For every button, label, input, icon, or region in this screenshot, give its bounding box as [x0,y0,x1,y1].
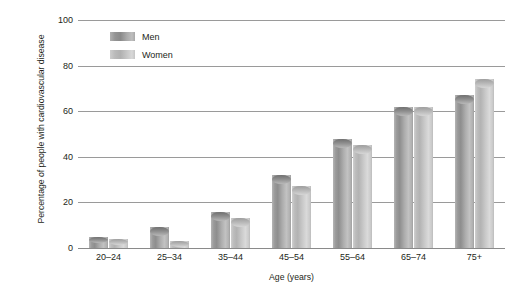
bar-body [455,95,474,248]
bar-body [414,107,433,248]
x-tick-label-55-64: 55–64 [340,252,365,262]
bar-men-45-54[interactable] [272,175,291,248]
bar-group [200,20,261,248]
bar-men-25-34[interactable] [150,227,169,248]
x-tick-label-75+: 75+ [467,252,482,262]
bar-group [261,20,322,248]
bar-men-20-24[interactable] [89,237,108,248]
bar-women-20-24[interactable] [109,239,128,248]
bar-top-cap [414,107,433,116]
bar-group [322,20,383,248]
bar-women-65-74[interactable] [414,107,433,248]
legend-swatch-men-icon [110,32,135,41]
gridline-0: 0 [78,248,505,249]
bar-body [333,139,352,248]
bar-body [394,107,413,248]
y-axis-title: Percentage of people with cardiovascular… [33,9,49,249]
bar-body [292,186,311,248]
y-tick-label-0: 0 [68,243,73,253]
bar-women-45-54[interactable] [292,186,311,248]
x-axis-title: Age (years) [78,272,505,282]
y-tick-label-20: 20 [63,197,73,207]
legend-swatch-women-icon [110,50,135,59]
x-tick-label-45-54: 45–54 [279,252,304,262]
legend-label-women: Women [142,50,173,60]
bar-top-cap [272,175,291,184]
legend: Men Women [110,29,173,65]
y-tick-label-60: 60 [63,106,73,116]
bar-men-65-74[interactable] [394,107,413,248]
bar-men-35-44[interactable] [211,212,230,248]
x-tick-label-20-24: 20–24 [96,252,121,262]
x-tick-label-65-74: 65–74 [401,252,426,262]
bar-top-cap [109,239,128,245]
bar-group [444,20,505,248]
bar-men-55-64[interactable] [333,139,352,248]
bar-women-75+[interactable] [475,79,494,248]
legend-item-men: Men [110,29,173,44]
bar-top-cap [211,212,230,221]
bar-group [383,20,444,248]
bar-body [475,79,494,248]
x-tick-label-35-44: 35–44 [218,252,243,262]
y-tick-label-100: 100 [58,15,73,25]
legend-item-women: Women [110,47,173,62]
x-tick-label-25-34: 25–34 [157,252,182,262]
bar-top-cap [394,107,413,116]
cardiovascular-disease-bar-chart: Percentage of people with cardiovascular… [0,0,522,301]
bar-women-35-44[interactable] [231,218,250,248]
y-tick-label-40: 40 [63,152,73,162]
bar-body [272,175,291,248]
legend-label-men: Men [142,32,160,42]
y-tick-label-80: 80 [63,61,73,71]
bar-body [353,145,372,248]
bar-women-55-64[interactable] [353,145,372,248]
bar-top-cap [333,139,352,148]
bar-top-cap [89,237,108,243]
bar-women-25-34[interactable] [170,241,189,248]
bar-men-75+[interactable] [455,95,474,248]
